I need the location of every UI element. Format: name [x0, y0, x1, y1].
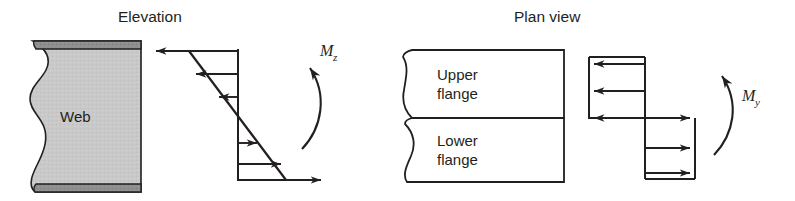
moment-my: M y: [714, 76, 760, 155]
web-bottom-flange-band: [34, 184, 141, 192]
figure-canvas: Elevation Web: [0, 0, 795, 201]
elevation-web-section: Web: [30, 41, 141, 192]
plan-flange-section: Upper flange Lower flange: [403, 50, 564, 182]
lower-flange-label-line2: flange: [437, 151, 478, 168]
plan-stress-diagram: [589, 57, 695, 179]
web-top-flange-band: [34, 41, 141, 49]
web-label: Web: [60, 108, 91, 125]
moment-my-arc: [714, 76, 733, 155]
elevation-title: Elevation: [118, 8, 182, 25]
elevation-stress-diagram: [156, 49, 321, 181]
lower-flange-label-line1: Lower: [437, 132, 478, 149]
upper-flange-box: [403, 50, 564, 118]
moment-mz-arc: [302, 68, 321, 149]
plan-view-title: Plan view: [514, 8, 581, 25]
upper-flange-label-line1: Upper: [437, 66, 478, 83]
lower-flange-box: [405, 118, 564, 182]
moment-my-subscript: y: [754, 96, 760, 108]
moment-mz-subscript: z: [332, 51, 338, 63]
upper-flange-label-line2: flange: [437, 85, 478, 102]
moment-mz: M z: [302, 42, 338, 149]
warping-stress-figure: Elevation Web: [0, 0, 795, 201]
